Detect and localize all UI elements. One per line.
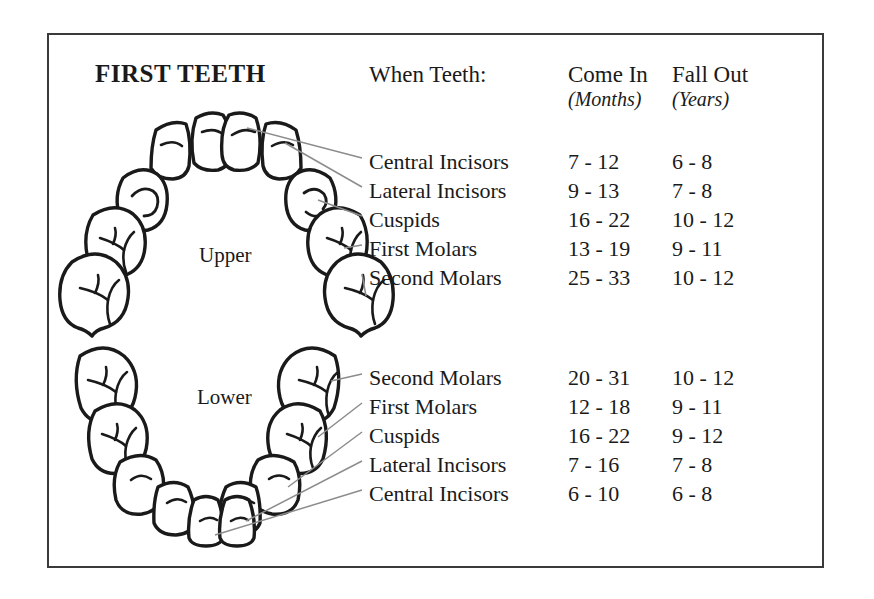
arch-label-lower: Lower xyxy=(197,385,252,410)
column-header-come-in: Come In (Months) xyxy=(568,62,648,110)
arch-label-upper: Upper xyxy=(199,243,251,268)
come-in-value-0-4: 25 - 33 xyxy=(568,267,630,289)
tooth-name-0-1: Lateral Incisors xyxy=(369,180,506,202)
tooth-name-1-0: Second Molars xyxy=(369,367,502,389)
fall-out-value-0-4: 10 - 12 xyxy=(672,267,734,289)
tooth-name-1-4: Central Incisors xyxy=(369,483,509,505)
column-header-when-teeth: When Teeth: xyxy=(369,62,486,88)
tooth-name-1-3: Lateral Incisors xyxy=(369,454,506,476)
come-in-value-0-2: 16 - 22 xyxy=(568,209,630,231)
tooth-name-0-2: Cuspids xyxy=(369,209,440,231)
header-fall-out-unit: (Years) xyxy=(672,88,748,110)
fall-out-value-1-4: 6 - 8 xyxy=(672,483,712,505)
fall-out-value-1-1: 9 - 11 xyxy=(672,396,723,418)
column-header-fall-out: Fall Out (Years) xyxy=(672,62,748,110)
fall-out-value-1-3: 7 - 8 xyxy=(672,454,712,476)
come-in-value-1-4: 6 - 10 xyxy=(568,483,619,505)
come-in-value-0-3: 13 - 19 xyxy=(568,238,630,260)
header-come-in-label: Come In xyxy=(568,62,648,87)
fall-out-value-0-1: 7 - 8 xyxy=(672,180,712,202)
come-in-value-1-2: 16 - 22 xyxy=(568,425,630,447)
fall-out-value-1-0: 10 - 12 xyxy=(672,367,734,389)
header-come-in-unit: (Months) xyxy=(568,88,648,110)
come-in-value-0-1: 9 - 13 xyxy=(568,180,619,202)
tooth-name-0-4: Second Molars xyxy=(369,267,502,289)
fall-out-value-0-2: 10 - 12 xyxy=(672,209,734,231)
header-fall-out-label: Fall Out xyxy=(672,62,748,87)
tooth-name-1-1: First Molars xyxy=(369,396,477,418)
fall-out-value-0-0: 6 - 8 xyxy=(672,151,712,173)
come-in-value-0-0: 7 - 12 xyxy=(568,151,619,173)
come-in-value-1-0: 20 - 31 xyxy=(568,367,630,389)
header-when-label: When Teeth: xyxy=(369,62,486,87)
tooth-name-0-3: First Molars xyxy=(369,238,477,260)
fall-out-value-1-2: 9 - 12 xyxy=(672,425,723,447)
tooth-name-0-0: Central Incisors xyxy=(369,151,509,173)
page-title: FIRST TEETH xyxy=(95,60,266,88)
come-in-value-1-3: 7 - 16 xyxy=(568,454,619,476)
tooth-name-1-2: Cuspids xyxy=(369,425,440,447)
fall-out-value-0-3: 9 - 11 xyxy=(672,238,723,260)
come-in-value-1-1: 12 - 18 xyxy=(568,396,630,418)
